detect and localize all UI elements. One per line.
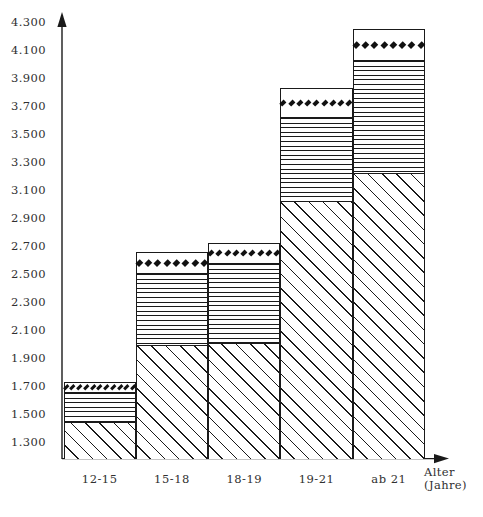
diamond-icon: [288, 100, 295, 107]
bar-segment-diagonal-hatch: [208, 343, 280, 459]
stacked-bar-chart: 4.3004.1003.9003.7003.5003.3003.1002.900…: [0, 0, 483, 517]
y-axis-tick-label: 3.900: [0, 72, 46, 84]
diamond-icon: [182, 259, 190, 267]
diamond-icon: [399, 41, 407, 49]
x-axis-tick-label-19-21: 19-21: [280, 472, 352, 486]
bar-15-18[interactable]: [136, 0, 208, 517]
x-axis-title: Alter (Jahre): [424, 466, 467, 492]
bar-segment-diagonal-hatch: [64, 422, 136, 458]
diamond-icon: [280, 100, 287, 107]
diamond-marker-row: [65, 384, 135, 390]
y-axis-tick-label: 3.500: [0, 128, 46, 140]
x-axis-title-line1: Alter: [424, 465, 455, 479]
diamond-icon: [216, 250, 223, 257]
y-axis-tick-label: 4.100: [0, 44, 46, 56]
y-axis-tick-label: 2.500: [0, 268, 46, 280]
y-axis-tick-label: 1.300: [0, 436, 46, 448]
bar-19-21[interactable]: [280, 0, 352, 517]
bar-segment-horizontal-lines: [280, 117, 352, 201]
diamond-icon: [97, 384, 103, 390]
bar-segment-diamonds: [353, 29, 425, 60]
y-axis-tick-label: 3.700: [0, 100, 46, 112]
diamond-icon: [390, 41, 398, 49]
diamond-icon: [145, 259, 153, 267]
x-axis-tick-label-ab-21: ab 21: [353, 472, 425, 486]
x-axis-tick-label-15-18: 15-18: [136, 472, 208, 486]
diamond-marker-row: [137, 260, 207, 266]
diamond-icon: [173, 259, 181, 267]
diamond-icon: [63, 384, 69, 390]
diamond-icon: [163, 259, 171, 267]
diamond-icon: [321, 100, 328, 107]
y-axis-tick-label: 2.700: [0, 240, 46, 252]
diamond-icon: [257, 250, 264, 257]
bar-segment-horizontal-lines: [64, 392, 136, 423]
diamond-icon: [266, 250, 273, 257]
y-axis-tick-label: 4.300: [0, 16, 46, 28]
diamond-icon: [224, 250, 231, 257]
diamond-marker-row: [281, 100, 351, 106]
x-axis-title-line2: (Jahre): [424, 479, 467, 492]
diamond-marker-row: [209, 251, 279, 257]
diamond-icon: [136, 259, 144, 267]
bar-segment-diagonal-hatch: [353, 173, 425, 458]
diamond-marker-row: [354, 42, 424, 48]
y-axis-tick-label: 1.500: [0, 408, 46, 420]
diamond-icon: [124, 384, 130, 390]
bar-segment-horizontal-lines: [208, 263, 280, 343]
x-axis-tick-label-18-19: 18-19: [208, 472, 280, 486]
bar-18-19[interactable]: [208, 0, 280, 517]
bar-ab-21[interactable]: [353, 0, 425, 517]
bar-segment-horizontal-lines: [136, 273, 208, 346]
diamond-icon: [103, 384, 109, 390]
bar-segment-horizontal-lines: [353, 60, 425, 173]
diamond-icon: [362, 41, 370, 49]
diamond-icon: [241, 250, 248, 257]
bar-segment-diagonal-hatch: [280, 201, 352, 458]
diamond-icon: [76, 384, 82, 390]
diamond-icon: [249, 250, 256, 257]
diamond-icon: [233, 250, 240, 257]
bar-segment-diamonds: [64, 382, 136, 392]
diamond-icon: [338, 100, 345, 107]
diamond-icon: [353, 41, 361, 49]
x-axis-tick-label-12-15: 12-15: [64, 472, 136, 486]
diamond-icon: [191, 259, 199, 267]
y-axis-tick-label: 3.300: [0, 156, 46, 168]
bar-segment-diagonal-hatch: [136, 345, 208, 458]
diamond-icon: [90, 384, 96, 390]
diamond-icon: [83, 384, 89, 390]
bar-12-15[interactable]: [64, 0, 136, 517]
diamond-icon: [418, 41, 426, 49]
y-axis-tick-label: 1.700: [0, 380, 46, 392]
y-axis-tick-label: 1.900: [0, 352, 46, 364]
bar-segment-diamonds: [136, 252, 208, 273]
diamond-icon: [154, 259, 162, 267]
diamond-icon: [110, 384, 116, 390]
y-axis-tick-label: 2.100: [0, 324, 46, 336]
diamond-icon: [305, 100, 312, 107]
bar-segment-diamonds: [280, 88, 352, 117]
diamond-icon: [117, 384, 123, 390]
diamond-icon: [297, 100, 304, 107]
diamond-icon: [313, 100, 320, 107]
bar-segment-diamonds: [208, 243, 280, 263]
diamond-icon: [70, 384, 76, 390]
diamond-icon: [208, 250, 215, 257]
diamond-icon: [330, 100, 337, 107]
y-axis-tick-label: 2.900: [0, 212, 46, 224]
diamond-icon: [371, 41, 379, 49]
diamond-icon: [408, 41, 416, 49]
diamond-icon: [201, 259, 209, 267]
diamond-icon: [380, 41, 388, 49]
y-axis-tick-label: 2.300: [0, 296, 46, 308]
y-axis-tick-label: 3.100: [0, 184, 46, 196]
